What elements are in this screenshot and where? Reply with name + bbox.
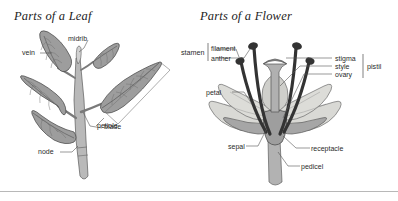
label-midrib: midrib (68, 35, 87, 42)
label-style: style (335, 63, 349, 70)
label-receptacle: receptacle (311, 145, 343, 152)
leaf-blade-left-lower (20, 76, 66, 115)
label-stigma: stigma (335, 55, 356, 62)
label-filament: filament (211, 45, 236, 52)
leaf-plant-drawing (20, 31, 170, 179)
label-node: node (38, 148, 54, 155)
leaf-blade-upper-left (40, 31, 72, 72)
leaf-blade-right-lower (100, 62, 161, 113)
leaf-blade-left-lowest (32, 110, 76, 143)
anther-1 (235, 56, 246, 66)
label-vein: vein (22, 49, 35, 56)
anther-3 (291, 41, 302, 50)
label-petal: petal (206, 89, 221, 96)
label-anther: anther (211, 55, 231, 62)
label-petiole: petiole (97, 122, 118, 129)
label-pedicel: pedicel (301, 163, 323, 170)
anther-4 (305, 56, 316, 66)
label-pistil: pistil (367, 63, 381, 70)
label-ovary: ovary (335, 71, 352, 78)
flower-figure-title: Parts of a Flower (200, 9, 292, 24)
figure-bottom-border (0, 191, 398, 192)
pedicel-shape (268, 140, 282, 185)
leaf-flower-artwork (0, 0, 398, 201)
label-stamen: stamen (181, 49, 205, 56)
stigma-shape (263, 59, 287, 64)
petiole-right-upper (81, 62, 93, 70)
label-sepal: sepal (228, 143, 245, 150)
leaf-blade-upper-right (93, 43, 119, 68)
anther-2 (247, 41, 258, 50)
botanical-diagram-page: Parts of a Leaf (0, 0, 398, 201)
